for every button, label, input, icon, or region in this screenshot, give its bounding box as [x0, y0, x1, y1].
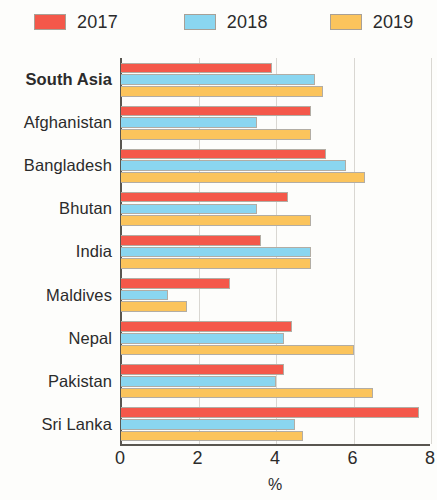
legend-label-2017: 2017 [77, 12, 118, 33]
bar-2017 [121, 63, 272, 74]
legend-swatch-2018 [184, 14, 216, 30]
bar-group: Sri Lanka [0, 403, 437, 446]
bar-2018 [121, 74, 315, 85]
x-tick-label: 2 [178, 448, 218, 469]
category-label: Maldives [0, 274, 112, 317]
bar-group: Maldives [0, 274, 437, 317]
bar-stack [121, 187, 437, 230]
bar-stack [121, 274, 437, 317]
x-tick-label: 4 [255, 448, 295, 469]
bar-group: India [0, 230, 437, 273]
x-axis-ticks: 02468 [0, 448, 437, 478]
x-axis-label: % [120, 476, 430, 494]
bar-2018 [121, 376, 276, 387]
bar-2019 [121, 388, 373, 399]
category-label: Bangladesh [0, 144, 112, 187]
bar-group: Bhutan [0, 187, 437, 230]
legend-item-2018: 2018 [184, 12, 268, 33]
bar-2019 [121, 301, 187, 312]
bar-2017 [121, 364, 284, 375]
x-tick-label: 8 [410, 448, 437, 469]
legend-swatch-2017 [34, 14, 66, 30]
bar-2017 [121, 106, 311, 117]
bar-2019 [121, 215, 311, 226]
chart-legend: 2017 2018 2019 [0, 0, 437, 44]
bar-2019 [121, 258, 311, 269]
bar-2017 [121, 278, 230, 289]
bar-stack [121, 58, 437, 101]
bar-2018 [121, 290, 168, 301]
bar-2019 [121, 172, 365, 183]
bar-group: Afghanistan [0, 101, 437, 144]
category-label: Bhutan [0, 187, 112, 230]
bar-stack [121, 403, 437, 446]
bar-stack [121, 144, 437, 187]
category-label: South Asia [0, 58, 112, 101]
x-tick-label: 0 [100, 448, 140, 469]
bar-group: Nepal [0, 317, 437, 360]
bar-2018 [121, 419, 295, 430]
bar-2017 [121, 192, 288, 203]
category-label: Nepal [0, 317, 112, 360]
bar-stack [121, 230, 437, 273]
bar-stack [121, 360, 437, 403]
bar-2018 [121, 117, 257, 128]
legend-item-2017: 2017 [34, 12, 118, 33]
legend-label-2019: 2019 [373, 12, 414, 33]
chart-root: 2017 2018 2019 South AsiaAfghanistanBang… [0, 0, 437, 500]
bar-2017 [121, 321, 292, 332]
bar-2019 [121, 86, 323, 97]
bar-stack [121, 317, 437, 360]
bar-stack [121, 101, 437, 144]
bar-2019 [121, 431, 303, 442]
legend-swatch-2019 [330, 14, 362, 30]
bar-group: Bangladesh [0, 144, 437, 187]
bar-group: Pakistan [0, 360, 437, 403]
bar-2017 [121, 407, 419, 418]
bar-2019 [121, 129, 311, 140]
bar-2018 [121, 247, 311, 258]
bar-2018 [121, 333, 284, 344]
bar-2018 [121, 204, 257, 215]
bar-group: South Asia [0, 58, 437, 101]
plot-area: South AsiaAfghanistanBangladeshBhutanInd… [0, 44, 437, 500]
bar-rows: South AsiaAfghanistanBangladeshBhutanInd… [0, 44, 437, 432]
bar-2019 [121, 345, 354, 356]
category-label: India [0, 230, 112, 273]
bar-2017 [121, 235, 261, 246]
x-tick-label: 6 [333, 448, 373, 469]
legend-label-2018: 2018 [227, 12, 268, 33]
category-label: Afghanistan [0, 101, 112, 144]
category-label: Pakistan [0, 360, 112, 403]
bar-2017 [121, 149, 326, 160]
legend-item-2019: 2019 [330, 12, 414, 33]
bar-2018 [121, 160, 346, 171]
category-label: Sri Lanka [0, 403, 112, 446]
